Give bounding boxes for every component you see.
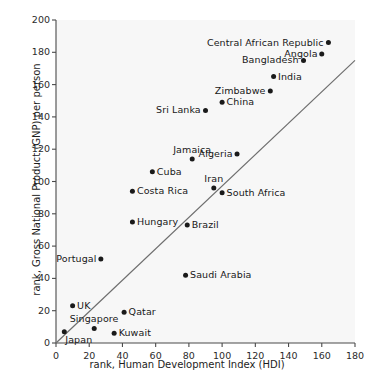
scatter-plot-figure: 0204060801001201401601802000204060801001… <box>0 0 374 378</box>
diagonal-trend-line <box>56 60 355 343</box>
point-label: Jamaica <box>173 145 211 155</box>
point-label: Hungary <box>137 217 178 227</box>
data-point <box>203 108 208 113</box>
point-label: Cuba <box>157 167 182 177</box>
point-label: Bangladesh <box>242 55 299 65</box>
point-label: Brazil <box>192 220 219 230</box>
data-point <box>326 40 331 45</box>
y-tick-label-200: 200 <box>18 15 50 25</box>
data-point <box>235 152 240 157</box>
point-label: UK <box>77 301 90 311</box>
point-label: China <box>227 97 255 107</box>
data-point <box>220 190 225 195</box>
data-point <box>183 273 188 278</box>
data-point <box>92 326 97 331</box>
data-point <box>98 257 103 262</box>
y-tick-label-0: 0 <box>18 338 50 348</box>
point-label: Central African Republic <box>207 38 324 48</box>
data-point <box>268 89 273 94</box>
point-label: Kuwait <box>119 328 151 338</box>
data-point <box>271 74 276 79</box>
point-label: Singapore <box>70 314 119 324</box>
data-point <box>150 169 155 174</box>
y-axis-title: rank, Gross National Product (GNP) per p… <box>31 30 42 330</box>
trend-line-group <box>56 60 355 343</box>
data-point <box>220 100 225 105</box>
data-point <box>185 223 190 228</box>
data-point <box>130 189 135 194</box>
point-label: Saudi Arabia <box>190 270 251 280</box>
data-point <box>190 156 195 161</box>
point-label: Qatar <box>129 307 156 317</box>
x-axis-title: rank, Human Development Index (HDI) <box>0 359 374 370</box>
point-label: South Africa <box>227 188 286 198</box>
point-label: Zimbabwe <box>215 86 266 96</box>
point-label: Costa Rica <box>137 186 188 196</box>
point-label: Sri Lanka <box>156 105 201 115</box>
data-point <box>112 331 117 336</box>
data-points-group <box>62 40 331 336</box>
point-label: India <box>278 72 302 82</box>
data-point <box>319 51 324 56</box>
data-point <box>130 219 135 224</box>
point-label: Japan <box>65 335 92 345</box>
point-label: Iran <box>204 174 223 184</box>
data-point <box>122 310 127 315</box>
point-label: Portugal <box>56 254 96 264</box>
data-point <box>70 303 75 308</box>
data-point <box>211 185 216 190</box>
